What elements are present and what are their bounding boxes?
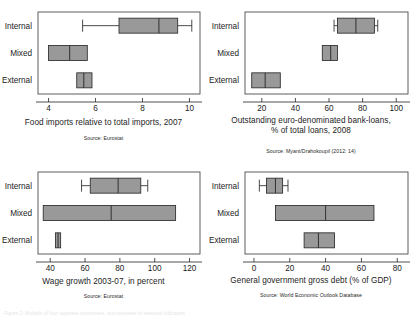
y-category-label: Mixed: [217, 49, 239, 58]
y-category-label: Mixed: [10, 209, 32, 218]
panel-title-food-imports: Food imports relative to total imports, …: [0, 118, 207, 128]
box: [77, 73, 92, 88]
x-tick-label: 20: [285, 264, 295, 273]
figure-grid: 46810InternalMixedExternal Food imports …: [0, 0, 415, 319]
panel-title-gross-debt: General government gross debt (% of GDP): [207, 276, 415, 286]
x-tick-label: 80: [393, 264, 403, 273]
x-tick-label: 60: [357, 264, 367, 273]
y-category-label: External: [209, 76, 239, 85]
x-tick-label: 40: [291, 104, 301, 113]
cut-off-footer-text: Figure 2: Multiple of four separate econ…: [0, 310, 415, 316]
x-tick-label: 100: [148, 264, 162, 273]
y-category-label: External: [2, 236, 32, 245]
panel-wage-growth: 406080100120InternalMixedExternal Wage g…: [0, 160, 207, 319]
panel-title-wage-growth: Wage growth 2003-07, in percent: [0, 277, 207, 287]
y-category-label: Mixed: [10, 49, 32, 58]
y-category-label: Internal: [212, 22, 239, 31]
panel-source-euro-bank-loans: Source: Myant/Drahokoupil (2012: 14): [207, 148, 415, 154]
boxplot-wage-growth: 406080100120InternalMixedExternal: [0, 160, 207, 277]
x-tick-label: 40: [321, 264, 331, 273]
panel-title-euro-bank-loans: Outstanding euro-denominated bank-loans,…: [207, 116, 415, 136]
box: [90, 178, 141, 193]
x-tick-label: 4: [46, 104, 51, 113]
x-tick-label: 60: [80, 264, 90, 273]
box: [49, 46, 88, 61]
panel-source-wage-growth: Source: Eurostat: [0, 293, 207, 299]
y-category-label: Internal: [5, 22, 32, 31]
panel-title-line2: % of total loans, 2008: [271, 126, 351, 135]
panel-gross-debt: 020406080InternalMixedExternal General g…: [207, 160, 415, 319]
y-category-label: Internal: [212, 182, 239, 191]
x-tick-label: 10: [185, 104, 195, 113]
box: [252, 73, 281, 88]
x-tick-label: 8: [140, 104, 145, 113]
panel-title-line1: Outstanding euro-denominated bank-loans,: [231, 116, 391, 125]
y-category-label: External: [209, 236, 239, 245]
x-tick-label: 100: [389, 104, 403, 113]
panel-euro-bank-loans: 20406080100InternalMixedExternal Outstan…: [207, 0, 415, 160]
x-tick-label: 6: [93, 104, 98, 113]
x-tick-label: 0: [252, 264, 257, 273]
box: [266, 178, 282, 193]
x-tick-label: 120: [183, 264, 197, 273]
x-tick-label: 20: [257, 104, 267, 113]
box: [43, 206, 175, 221]
boxplot-gross-debt: 020406080InternalMixedExternal: [207, 160, 415, 276]
boxplot-food-imports: 46810InternalMixedExternal: [0, 0, 207, 118]
x-tick-label: 60: [324, 104, 334, 113]
panel-source-food-imports: Source: Eurostat: [0, 135, 207, 141]
y-category-label: Mixed: [217, 209, 239, 218]
box: [322, 46, 337, 61]
boxplot-euro-bank-loans: 20406080100InternalMixedExternal: [207, 0, 415, 116]
box: [304, 233, 334, 248]
box: [275, 206, 374, 221]
y-category-label: Internal: [5, 182, 32, 191]
box: [119, 18, 178, 33]
x-tick-label: 80: [358, 104, 368, 113]
y-category-label: External: [2, 76, 32, 85]
x-tick-label: 80: [115, 264, 125, 273]
x-tick-label: 40: [46, 264, 56, 273]
panel-source-gross-debt: Source: World Economic Outlook Database: [207, 292, 415, 298]
panel-food-imports: 46810InternalMixedExternal Food imports …: [0, 0, 207, 160]
